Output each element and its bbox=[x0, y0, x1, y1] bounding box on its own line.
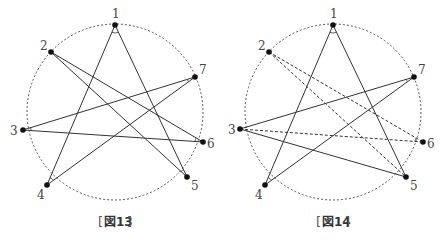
point-5 bbox=[403, 174, 409, 180]
figure-13: 1234567 bbox=[10, 7, 215, 202]
angle-mark bbox=[406, 79, 407, 81]
dashed-circle bbox=[27, 24, 203, 200]
point-label-1: 1 bbox=[112, 7, 120, 21]
angle-mark bbox=[50, 178, 53, 181]
point-label-7: 7 bbox=[199, 63, 207, 77]
point-4 bbox=[262, 182, 268, 188]
point-label-4: 4 bbox=[37, 188, 45, 202]
point-2 bbox=[266, 49, 272, 55]
caption-bracket-close-13: ] bbox=[127, 214, 132, 229]
angle-mark bbox=[112, 32, 119, 33]
point-6 bbox=[420, 139, 426, 145]
chord-1-5 bbox=[115, 25, 187, 177]
point-label-6: 6 bbox=[207, 137, 215, 151]
point-label-5: 5 bbox=[191, 179, 199, 193]
angle-mark bbox=[195, 138, 196, 142]
point-label-4: 4 bbox=[255, 188, 263, 202]
angle-mark bbox=[330, 32, 337, 33]
angle-mark bbox=[57, 56, 58, 57]
chord-3-5 bbox=[240, 129, 406, 177]
caption-bracket-open-14: [ bbox=[316, 214, 321, 229]
point-7 bbox=[192, 74, 198, 80]
chord-1-5 bbox=[333, 25, 406, 177]
point-label-2: 2 bbox=[258, 39, 266, 53]
point-label-7: 7 bbox=[418, 63, 426, 77]
chord-2-6 bbox=[51, 52, 203, 142]
point-label-3: 3 bbox=[10, 124, 18, 138]
caption-bracket-close-14: ] bbox=[345, 214, 350, 229]
point-5 bbox=[184, 174, 190, 180]
point-3 bbox=[237, 126, 243, 132]
point-label-1: 1 bbox=[330, 7, 338, 21]
point-1 bbox=[330, 22, 336, 28]
chord-2-5 bbox=[51, 52, 187, 177]
caption-bracket-open-13: [ bbox=[98, 214, 103, 229]
angle-mark bbox=[275, 56, 276, 57]
point-2 bbox=[48, 49, 54, 55]
angle-mark bbox=[268, 178, 271, 181]
point-3 bbox=[20, 127, 26, 133]
point-label-3: 3 bbox=[228, 123, 236, 137]
chord-1-4 bbox=[265, 25, 333, 185]
angle-mark bbox=[187, 79, 188, 81]
point-1 bbox=[112, 22, 118, 28]
point-4 bbox=[44, 182, 50, 188]
chord-3-6 bbox=[240, 129, 423, 142]
chord-3-6 bbox=[23, 130, 203, 142]
point-label-5: 5 bbox=[410, 179, 418, 193]
angle-mark bbox=[181, 170, 183, 172]
point-label-6: 6 bbox=[427, 137, 435, 151]
point-6 bbox=[200, 139, 206, 145]
point-label-2: 2 bbox=[40, 39, 48, 53]
diagram-canvas: 1234567 1234567 [ 図13 ] [ 図14 ] bbox=[0, 0, 441, 245]
point-7 bbox=[411, 74, 417, 80]
figure-14: 1234567 bbox=[228, 7, 435, 202]
